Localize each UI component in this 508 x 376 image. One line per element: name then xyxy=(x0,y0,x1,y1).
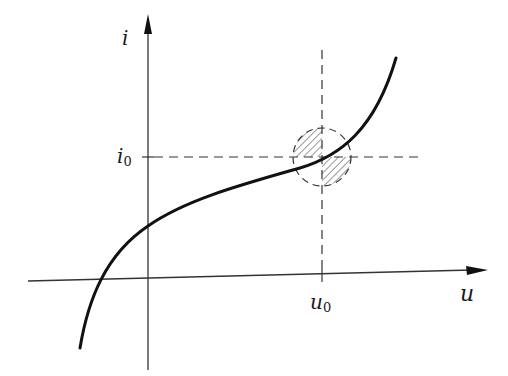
i-axis-arrow-icon xyxy=(144,14,152,34)
diagram-canvas: i i0 u0 u xyxy=(0,0,508,376)
u0-label-sub: 0 xyxy=(323,300,331,315)
characteristic-curve xyxy=(80,58,396,348)
u-axis-label-text: u xyxy=(460,281,474,306)
u0-label: u0 xyxy=(310,292,331,314)
i-axis-label-text: i xyxy=(122,26,128,50)
u-axis-label: u xyxy=(460,283,474,305)
i0-label-sub: 0 xyxy=(123,154,131,169)
u-axis-arrow-icon xyxy=(466,266,488,275)
i-axis-label: i xyxy=(122,28,128,48)
u-axis xyxy=(28,270,472,281)
i0-label: i0 xyxy=(117,146,132,168)
u0-label-main: u xyxy=(310,290,323,314)
